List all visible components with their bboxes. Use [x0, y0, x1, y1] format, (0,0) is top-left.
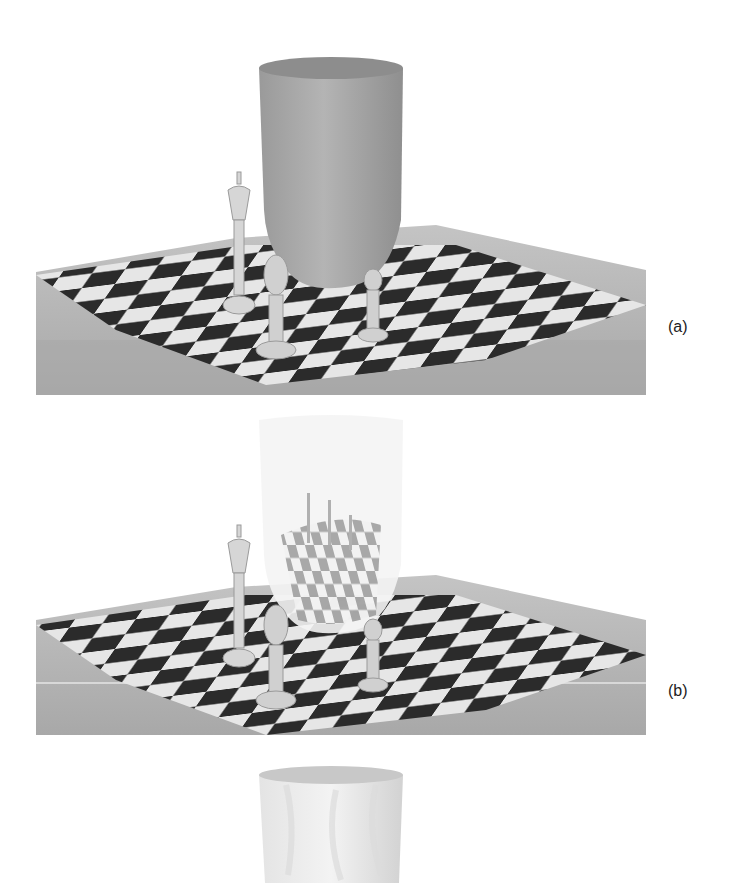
vase-rim: [259, 57, 403, 79]
rendered-scene-textured-vase: [36, 765, 646, 883]
rendered-scene-transparent-vase: [36, 415, 646, 750]
figure-panel-a: [36, 50, 646, 395]
rendered-scene-opaque-vase: [36, 50, 646, 395]
vase-rim: [259, 766, 403, 784]
figure-panel-b: [36, 415, 646, 750]
vase: [259, 62, 403, 289]
panel-label-a: (a): [668, 318, 688, 336]
panel-label-b: (b): [668, 682, 688, 700]
figure-panel-c: [36, 765, 646, 883]
